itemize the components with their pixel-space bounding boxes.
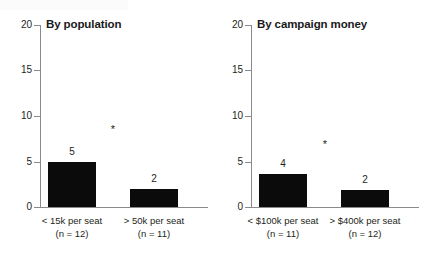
- bar-value-1: 2: [130, 174, 178, 184]
- x-category-label-0-text: < 15k per seat: [42, 215, 102, 226]
- chart-panel-by-campaign-money: By campaign money 20 15 10 5 0 4 2 * < $…: [211, 0, 422, 256]
- y-tick-label-5: 5: [215, 157, 243, 167]
- x-category-label-1-text: > $400k per seat: [329, 215, 400, 226]
- x-axis-line: [251, 207, 419, 208]
- y-tick-label-15: 15: [215, 65, 243, 75]
- significance-asterisk: *: [106, 124, 120, 135]
- y-tick-mark-15: [245, 70, 251, 71]
- y-tick-label-15: 15: [4, 65, 32, 75]
- chart-panel-by-population: By population 20 15 10 5 0 5 2 * < 15k p…: [0, 0, 211, 256]
- y-tick-mark-5: [34, 162, 40, 163]
- y-tick-label-5: 5: [4, 157, 32, 167]
- x-category-label-0-text: < $100k per seat: [247, 215, 318, 226]
- y-tick-label-20: 20: [215, 20, 243, 30]
- y-tick-label-20: 20: [4, 20, 32, 30]
- bar-1: [341, 190, 389, 207]
- significance-asterisk: *: [318, 139, 332, 150]
- y-axis-line: [251, 25, 252, 208]
- bar-value-0: 4: [259, 159, 307, 169]
- bar-0: [48, 162, 96, 207]
- y-tick-mark-15: [34, 70, 40, 71]
- bar-value-0: 5: [48, 147, 96, 157]
- panel-title: By campaign money: [257, 18, 367, 30]
- y-tick-label-0: 0: [215, 202, 243, 212]
- y-tick-mark-20: [245, 25, 251, 26]
- x-category-label-1: > $400k per seat (n = 12): [315, 214, 415, 240]
- x-axis-line: [40, 207, 208, 208]
- bar-value-1: 2: [341, 175, 389, 185]
- y-tick-mark-0: [245, 207, 251, 208]
- y-tick-label-0: 0: [4, 202, 32, 212]
- y-axis-line: [40, 25, 41, 208]
- y-tick-mark-5: [245, 162, 251, 163]
- y-tick-label-10: 10: [215, 111, 243, 121]
- x-category-label-1-n: (n = 12): [315, 227, 415, 240]
- y-tick-mark-20: [34, 25, 40, 26]
- y-tick-mark-0: [34, 207, 40, 208]
- y-tick-label-10: 10: [4, 111, 32, 121]
- panel-title: By population: [46, 18, 121, 30]
- x-category-label-1-text: > 50k per seat: [124, 215, 184, 226]
- x-category-label-1: > 50k per seat (n = 11): [104, 214, 204, 240]
- bar-0: [259, 174, 307, 207]
- y-tick-mark-10: [34, 116, 40, 117]
- y-tick-mark-10: [245, 116, 251, 117]
- x-category-label-1-n: (n = 11): [104, 227, 204, 240]
- bar-1: [130, 189, 178, 207]
